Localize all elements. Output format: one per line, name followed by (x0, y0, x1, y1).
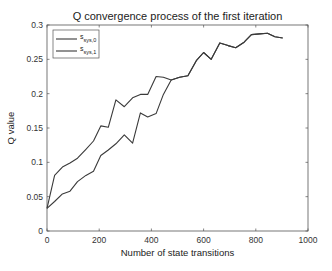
x-tick-label: 1000 (299, 235, 318, 245)
y-tick-label: 0.1 (31, 157, 43, 167)
y-tick-label: 0 (38, 226, 43, 236)
y-tick-label: 0.2 (31, 89, 43, 99)
x-tick-label: 600 (197, 235, 211, 245)
x-axis-label: Number of state transitions (121, 247, 235, 258)
x-tick-label: 800 (249, 235, 263, 245)
legend: ssys,0 ssys,1 (53, 30, 99, 58)
x-tick-label: 200 (92, 235, 106, 245)
x-tick-label: 0 (45, 235, 50, 245)
y-tick-label: 0.05 (26, 192, 43, 202)
y-axis-label: Q value (5, 112, 16, 145)
y-tick-label: 0.25 (26, 54, 43, 64)
y-tick-label: 0.15 (26, 123, 43, 133)
y-tick-label: 0.3 (31, 20, 43, 30)
x-tick-label: 400 (144, 235, 158, 245)
line-chart: Q convergence process of the first itera… (0, 0, 332, 271)
chart-title: Q convergence process of the first itera… (73, 10, 283, 22)
